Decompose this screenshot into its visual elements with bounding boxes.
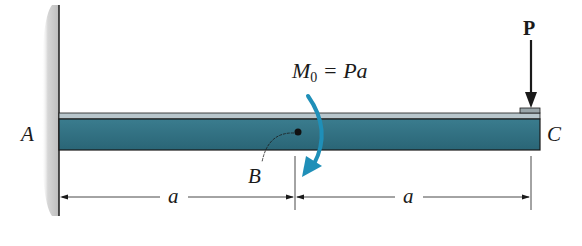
moment-value: = Pa [317,58,367,83]
label-dim-right-a: a [403,186,414,207]
label-c-free-end: C [547,124,561,145]
label-a-support: A [21,124,34,145]
label-dim-left-a: a [168,186,179,207]
load-plate [520,108,540,113]
beam-diagram [0,0,582,246]
fixed-wall-support [42,5,59,216]
dimension-lines [62,156,531,210]
force-arrow-icon [525,40,537,108]
moment-symbol: M [292,58,310,83]
label-b-point: B [248,166,261,187]
label-moment: M0 = Pa [292,60,368,85]
label-force-p: P [523,18,535,38]
